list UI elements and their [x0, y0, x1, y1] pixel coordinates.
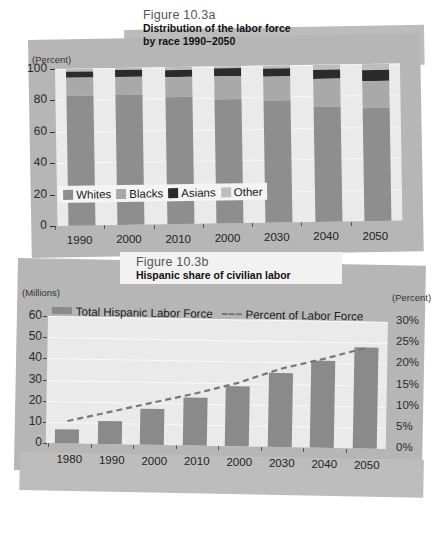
- chart-b-legend-label: Total Hispanic Labor Force: [76, 305, 213, 319]
- chart-a-bar-segment-blacks: [263, 76, 290, 101]
- chart-a-stacked-bar: [313, 65, 342, 222]
- chart-a-x-tick-label: 2010: [153, 233, 203, 245]
- chart-a-y-tick-mark: [50, 195, 55, 196]
- chart-b-x-tick-label: 2050: [344, 459, 390, 471]
- legend-dashed-line-icon: [222, 312, 242, 314]
- legend-swatch-icon: [168, 188, 178, 198]
- chart-a-x-tick-mark: [203, 224, 204, 228]
- legend-bar-swatch-icon: [52, 307, 72, 314]
- chart-a-bar-segment-asians: [313, 69, 340, 79]
- chart-a-x-tick-mark: [301, 222, 302, 226]
- figure-a-title-block: Figure 10.3a Distribution of the labor f…: [143, 8, 291, 47]
- chart-b-y-tick-label-left: 0: [14, 435, 42, 449]
- chart-b-y-tick-label-right: 5%: [396, 420, 428, 432]
- chart-a-bar-segment-blacks: [313, 79, 340, 108]
- chart-a-bar-segment-blacks: [66, 78, 93, 96]
- chart-a-stacked-bar: [362, 64, 391, 221]
- chart-b-y-tick-label-left: 30: [14, 372, 42, 386]
- chart-b-y-tick-label-right: 10%: [396, 399, 428, 411]
- chart-b-y-tick-label-right: 20%: [396, 356, 428, 368]
- chart-b-y-tick-mark-left: [43, 443, 47, 444]
- figure-a-number: Figure 10.3a: [143, 8, 291, 22]
- chart-b-y-tick-label-left: 10: [14, 414, 42, 428]
- figure-a-title-line1: Distribution of the labor force: [143, 22, 291, 35]
- chart-a-y-tick-mark: [50, 132, 55, 133]
- chart-a-x-tick-mark: [252, 223, 253, 227]
- chart-b-x-tick-label: 2040: [301, 458, 347, 470]
- chart-a-bar-segment-whites: [116, 94, 145, 225]
- legend-swatch-icon: [63, 189, 73, 199]
- chart-a-y-tick-label: 100: [17, 61, 47, 75]
- chart-b-y-axis-label-left: (Millions): [22, 287, 60, 298]
- chart-a-legend-label: Other: [234, 185, 263, 197]
- chart-a-y-tick-mark: [50, 163, 55, 164]
- chart-a-y-tick-label: 20: [17, 186, 47, 200]
- chart-b-y-tick-label-left: 50: [14, 329, 42, 343]
- chart-a-bar-segment-blacks: [116, 76, 143, 94]
- chart-a-bar-segment-blacks: [214, 76, 241, 99]
- chart-a-x-tick-label: 2040: [301, 230, 351, 242]
- figure-b-title-line1: Hispanic share of civilian labor: [136, 269, 291, 282]
- chart-a-y-tick-label: 40: [17, 155, 47, 169]
- chart-a-y-tick-label: 0: [17, 218, 47, 232]
- chart-a-legend-item: Asians: [168, 186, 216, 199]
- chart-a-bar-segment-whites: [165, 97, 194, 225]
- chart-a-bar-segment-whites: [67, 95, 96, 226]
- chart-b-y-tick-label-right: 15%: [396, 378, 428, 390]
- chart-a-bar-segment-blacks: [165, 77, 192, 97]
- chart-b-x-tick-label: 2030: [259, 457, 305, 469]
- scanned-page: Figure 10.3a Distribution of the labor f…: [0, 0, 444, 537]
- chart-b-y-axis-label-right: (Percent): [392, 292, 431, 303]
- chart-b-x-tick-mark: [133, 445, 134, 449]
- chart-a-y-tick-label: 80: [17, 92, 47, 106]
- chart-a-x-tick-mark: [154, 225, 155, 229]
- chart-a-bar-segment-whites: [264, 101, 293, 223]
- chart-b-x-tick-mark: [176, 445, 177, 449]
- chart-b-x-tick-label: 2000: [216, 456, 262, 468]
- chart-a-bar-segment-whites: [313, 107, 342, 222]
- chart-a-stacked-bar: [263, 65, 292, 222]
- legend-swatch-icon: [221, 187, 231, 197]
- chart-a-x-tick-label: 2000: [203, 232, 253, 244]
- chart-a-x-tick-mark: [104, 225, 105, 229]
- chart-a-y-tick-label: 60: [17, 124, 47, 138]
- chart-b-x-tick-mark: [303, 448, 304, 452]
- chart-b-y-tick-label-right: 0%: [396, 441, 428, 453]
- chart-b-x-tick-mark: [346, 449, 347, 453]
- figure-b-title-block: Figure 10.3b Hispanic share of civilian …: [136, 255, 291, 282]
- chart-b-y-tick-label-left: 20: [14, 393, 42, 407]
- chart-a-x-tick-label: 1990: [55, 234, 105, 246]
- chart-b-y-tick-mark-left: [43, 316, 47, 317]
- chart-a-legend-label: Whites: [76, 188, 111, 201]
- chart-a-legend-label: Blacks: [129, 187, 163, 200]
- chart-b-y-tick-label-left: 40: [14, 350, 42, 364]
- chart-a-bar-segment-whites: [362, 108, 391, 221]
- chart-b-legend-label: Percent of Labor Force: [246, 308, 364, 322]
- chart-a-legend-item: Other: [221, 185, 263, 198]
- chart-a-x-tick-mark: [55, 226, 56, 230]
- chart-b-x-tick-label: 2000: [131, 455, 177, 467]
- chart-b-x-tick-mark: [48, 443, 49, 447]
- chart-b-legend-item: Total Hispanic Labor Force: [52, 304, 213, 319]
- chart-b-x-tick-mark: [218, 446, 219, 450]
- chart-b-y-tick-label-right: 30%: [396, 314, 428, 326]
- chart-a-x-tick-label: 2000: [104, 233, 154, 245]
- chart-b-x-tick-mark: [91, 444, 92, 448]
- chart-a-bar-segment-whites: [214, 99, 243, 223]
- chart-a-legend: WhitesBlacksAsiansOther: [58, 183, 268, 203]
- chart-b-legend-item: Percent of Labor Force: [222, 307, 364, 321]
- chart-a-legend-label: Asians: [181, 186, 216, 199]
- chart-b-plot-area: [46, 316, 388, 449]
- legend-swatch-icon: [116, 188, 126, 198]
- chart-b-x-tick-mark: [261, 447, 262, 451]
- chart-b-y-tick-label-right: 25%: [396, 335, 428, 347]
- chart-a-y-tick-mark: [50, 100, 55, 101]
- figure-b-number: Figure 10.3b: [136, 255, 291, 269]
- chart-a-x-tick-label: 2030: [252, 231, 302, 243]
- chart-b-y-tick-label-left: 60: [14, 308, 42, 322]
- chart-a-x-tick-mark: [351, 222, 352, 226]
- chart-a-x-tick-label: 2050: [350, 230, 400, 242]
- chart-a-bar-segment-asians: [362, 70, 389, 81]
- chart-b-x-tick-label: 1990: [89, 454, 135, 466]
- figure-a-title-line2: by race 1990–2050: [143, 35, 291, 48]
